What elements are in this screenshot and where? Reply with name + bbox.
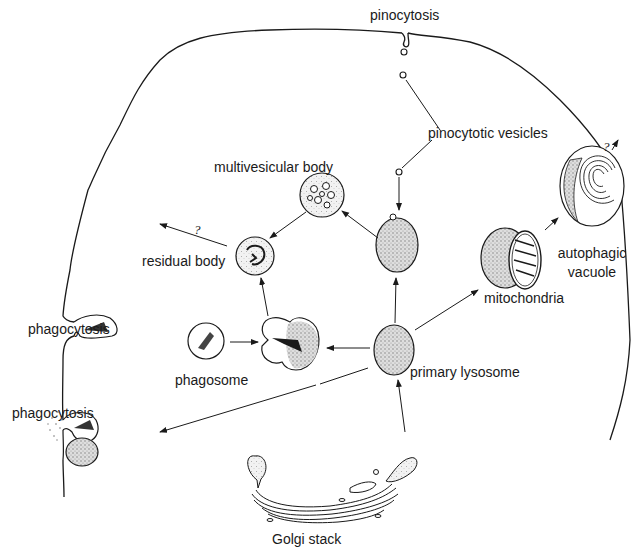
label-phagocytosis-bottom: phagocytosis <box>12 406 94 421</box>
golgi-stack <box>248 456 417 523</box>
label-question-residual: ? <box>194 222 201 238</box>
label-question-autophagic: ? <box>603 139 610 155</box>
residual-body <box>236 237 274 275</box>
mitochondria-autophagy <box>481 228 541 289</box>
label-primary-lysosome: primary lysosome <box>410 365 520 380</box>
label-residual-body: residual body <box>142 254 225 269</box>
lysosome-diagram <box>0 0 643 553</box>
arrow-mitochondria-to-autophagic <box>545 218 558 230</box>
arrow-mvb-to-residual <box>270 212 306 238</box>
pinocytotic-vesicles-leader-2 <box>402 140 432 168</box>
label-autophagic-line1: autophagic <box>550 246 634 261</box>
primary-lysosome <box>374 325 414 375</box>
label-autophagic-line2: vacuole <box>550 265 634 280</box>
label-phagosome: phagosome <box>175 373 248 388</box>
arrow-primary-to-secondary <box>395 278 396 323</box>
phagosome <box>188 323 224 359</box>
autophagic-vacuole <box>560 146 624 226</box>
arrow-heterophagic-to-residual <box>261 278 268 316</box>
heterophagic-vacuole <box>262 317 319 370</box>
arrow-golgi-to-primary <box>398 380 405 432</box>
label-multivesicular-body: multivesicular body <box>214 160 333 175</box>
pinocytotic-vesicles <box>396 49 407 175</box>
pinocytotic-vesicles-leader <box>406 80 440 130</box>
label-pinocytotic-vesicles: pinocytotic vesicles <box>428 126 548 141</box>
arrow-primary-to-exocytosis-2 <box>160 385 316 432</box>
multivesicular-body <box>300 173 344 217</box>
arrow-lysosome-to-mvb <box>342 211 378 238</box>
label-pinocytosis: pinocytosis <box>370 8 439 23</box>
label-mitochondria: mitochondria <box>484 291 564 306</box>
label-phagocytosis-top: phagocytosis <box>28 322 110 337</box>
arrow-primary-to-exocytosis <box>320 368 368 384</box>
arrow-autophagic-exocytosis <box>612 140 618 150</box>
secondary-lysosome <box>376 214 418 272</box>
label-golgi-stack: Golgi stack <box>272 532 341 547</box>
label-autophagic-vacuole: autophagic vacuole <box>550 246 634 281</box>
arrow-primary-to-mitochondria <box>415 290 478 330</box>
